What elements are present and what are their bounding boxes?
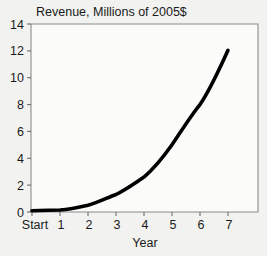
x-tick-label-3: 3 (114, 218, 121, 232)
chart-container: 0 2 4 6 8 10 12 14 Start 1 2 3 4 5 (0, 0, 267, 256)
x-tick-label-start: Start (22, 218, 49, 232)
x-tick-label-7: 7 (226, 218, 233, 232)
x-tick-label-5: 5 (170, 218, 177, 232)
chart-title: Revenue, Millions of 2005$ (36, 5, 187, 19)
y-tick-label-4: 4 (17, 152, 24, 166)
y-tick-label-10: 10 (10, 71, 24, 85)
revenue-line-chart: 0 2 4 6 8 10 12 14 Start 1 2 3 4 5 (0, 0, 267, 256)
y-tick-label-14: 14 (10, 18, 24, 32)
x-tick-label-1: 1 (58, 218, 65, 232)
x-tick-label-4: 4 (142, 218, 149, 232)
y-tick-label-8: 8 (17, 98, 24, 112)
y-tick-label-6: 6 (17, 125, 24, 139)
x-tick-label-2: 2 (86, 218, 93, 232)
y-tick-label-2: 2 (17, 179, 24, 193)
x-axis-title: Year (132, 236, 157, 250)
plot-area-background (31, 24, 258, 212)
x-tick-label-6: 6 (198, 218, 205, 232)
y-tick-label-12: 12 (10, 44, 24, 58)
